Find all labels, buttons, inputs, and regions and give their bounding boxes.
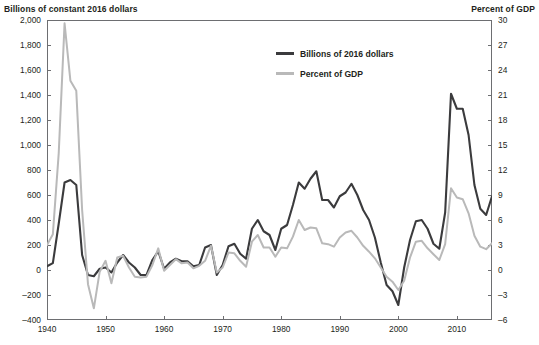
left-tick-label: –400	[0, 315, 41, 325]
series-line	[47, 23, 492, 308]
legend-item: Percent of GDP	[276, 66, 394, 81]
left-tick-label: 1,600	[0, 65, 41, 75]
legend-label: Billions of 2016 dollars	[300, 49, 394, 59]
right-tick-label: 9	[498, 190, 503, 200]
x-tick-label: 2000	[378, 324, 418, 334]
legend-item: Billions of 2016 dollars	[276, 46, 394, 61]
x-tick-label: 1960	[144, 324, 184, 334]
series-layer	[47, 20, 492, 320]
right-tick-label: 3	[498, 240, 503, 250]
left-tick-label: 2,000	[0, 15, 41, 25]
chart-legend: Billions of 2016 dollarsPercent of GDP	[276, 46, 394, 86]
right-tick-label: –3	[498, 290, 507, 300]
left-tick-label: –200	[0, 290, 41, 300]
right-axis-title: Percent of GDP	[471, 4, 535, 14]
left-tick-label: 0	[0, 265, 41, 275]
x-tick-label: 2010	[437, 324, 477, 334]
left-tick-label: 1,400	[0, 90, 41, 100]
legend-label: Percent of GDP	[300, 69, 363, 79]
x-tick-label: 1990	[320, 324, 360, 334]
legend-swatch-icon	[276, 52, 294, 55]
right-tick-label: 24	[498, 65, 507, 75]
legend-swatch-icon	[276, 72, 294, 75]
left-tick-label: 800	[0, 165, 41, 175]
x-tick-label: 1970	[203, 324, 243, 334]
left-tick-label: 200	[0, 240, 41, 250]
right-tick-label: 0	[498, 265, 503, 275]
x-tick-label: 1980	[261, 324, 301, 334]
right-tick-label: –6	[498, 315, 507, 325]
right-tick-label: 18	[498, 115, 507, 125]
right-tick-label: 21	[498, 90, 507, 100]
x-tick-label: 1950	[86, 324, 126, 334]
right-tick-label: 12	[498, 165, 507, 175]
x-tick-label: 1940	[27, 324, 67, 334]
left-tick-label: 400	[0, 215, 41, 225]
left-axis-title: Billions of constant 2016 dollars	[4, 4, 138, 14]
right-tick-label: 27	[498, 40, 507, 50]
left-tick-label: 600	[0, 190, 41, 200]
right-tick-label: 6	[498, 215, 503, 225]
right-tick-label: 30	[498, 15, 507, 25]
deficit-chart: Billions of constant 2016 dollars Percen…	[0, 0, 539, 345]
left-tick-label: 1,000	[0, 140, 41, 150]
left-tick-label: 1,200	[0, 115, 41, 125]
left-tick-label: 1,800	[0, 40, 41, 50]
right-tick-label: 15	[498, 140, 507, 150]
